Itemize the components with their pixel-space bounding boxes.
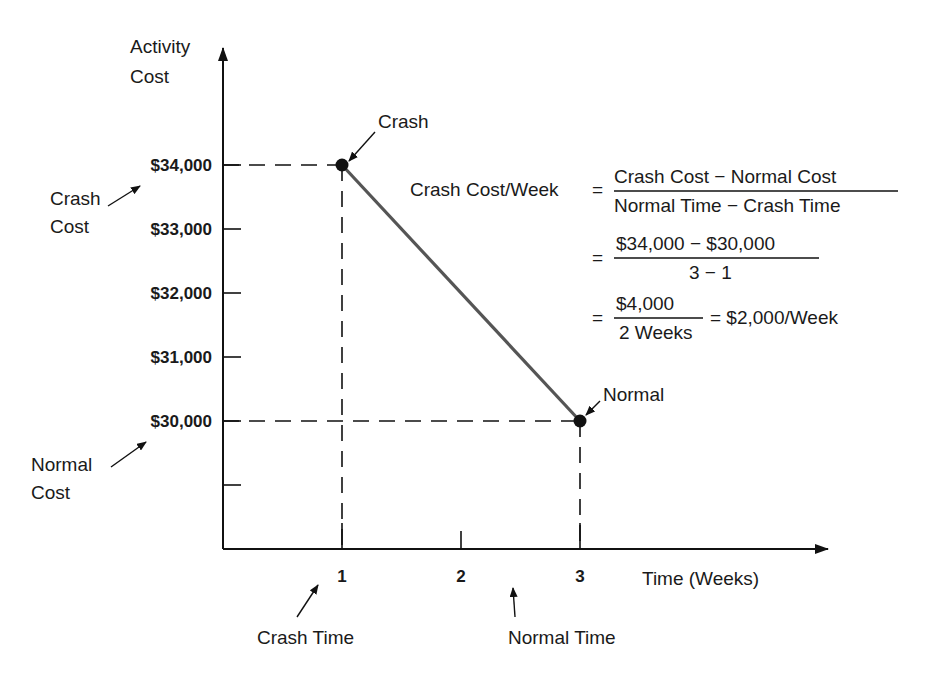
reference-lines [223,165,580,549]
y-tick-label: $32,000 [151,284,212,303]
formula-2-denominator: 3 − 1 [689,262,732,283]
normal-cost-arrow [111,442,146,467]
y-axis-title-line-1: Activity [130,36,191,57]
formula-3-denominator: 2 Weeks [619,322,693,343]
normal-time-annotation: Normal Time [508,627,616,648]
crash-cost-chart: Activity Cost Time (Weeks) $34,000$33,00… [0,0,926,676]
formula-eq-2: = [592,247,603,268]
normal-point-arrow [586,401,600,415]
y-tick-label: $31,000 [151,348,212,367]
formula-eq-1: = [592,179,603,200]
formula-3-result: = $2,000/Week [710,307,838,328]
formula-eq-3: = [592,307,603,328]
crash-time-arrow [297,585,318,617]
formula-2-numerator: $34,000 − $30,000 [616,233,775,254]
x-ticks: 123 [337,523,584,586]
crash-cost-arrow [108,186,140,206]
x-tick-label: 1 [337,567,346,586]
data-point-normal [574,415,587,428]
crash-cost-annotation-line-1: Crash [50,188,101,209]
y-tick-label: $33,000 [151,220,212,239]
formula-1-denominator: Normal Time − Crash Time [614,195,840,216]
y-tick-label: $34,000 [151,156,212,175]
normal-cost-annotation-line-1: Normal [31,454,92,475]
y-ticks: $34,000$33,000$32,000$31,000$30,000 [151,156,241,485]
crash-point-arrow [349,132,375,161]
crash-point-label: Crash [378,111,429,132]
y-tick-label: $30,000 [151,412,212,431]
normal-cost-annotation-line-2: Cost [31,482,71,503]
normal-point-label: Normal [603,384,664,405]
normal-time-arrow [513,588,515,617]
data-point-crash [336,159,349,172]
formula-3-numerator: $4,000 [616,293,674,314]
series-line [342,165,580,421]
x-axis-title: Time (Weeks) [642,568,759,589]
crash-cost-annotation-line-2: Cost [50,216,90,237]
formula-1-numerator: Crash Cost − Normal Cost [614,166,837,187]
x-tick-label: 3 [575,567,584,586]
crash-time-annotation: Crash Time [257,627,354,648]
x-tick-label: 2 [456,567,465,586]
formula-lhs: Crash Cost/Week [410,179,559,200]
y-axis-title-line-2: Cost [130,66,170,87]
